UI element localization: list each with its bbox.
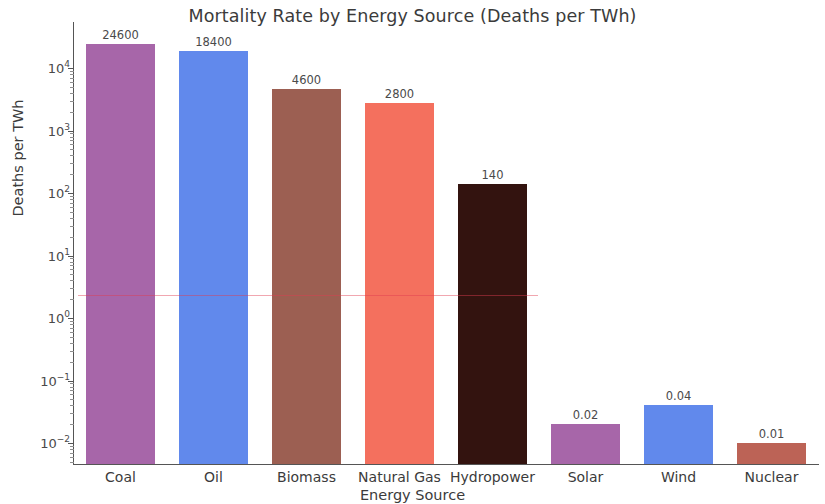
y-minor-tick <box>70 394 74 395</box>
x-tick-label: Oil <box>204 469 223 485</box>
x-tick-label: Biomass <box>277 469 336 485</box>
y-tick-mark <box>68 318 74 319</box>
y-minor-tick <box>70 203 74 204</box>
y-minor-tick <box>70 405 74 406</box>
y-minor-tick <box>70 280 74 281</box>
y-minor-tick <box>70 237 74 238</box>
y-minor-tick <box>70 207 74 208</box>
y-minor-tick <box>70 163 74 164</box>
y-tick-label: 100 <box>0 311 70 326</box>
y-minor-tick <box>70 144 74 145</box>
bar <box>272 89 341 464</box>
x-tick-label: Wind <box>661 469 696 485</box>
y-minor-tick <box>70 449 74 450</box>
y-tick-mark <box>68 381 74 382</box>
y-minor-tick <box>70 321 74 322</box>
bar <box>551 424 620 464</box>
y-tick-label: 10−2 <box>0 436 70 451</box>
bar <box>365 103 434 464</box>
y-minor-tick <box>70 446 74 447</box>
y-minor-tick <box>70 453 74 454</box>
y-minor-tick <box>70 155 74 156</box>
y-tick-label: 10−1 <box>0 373 70 388</box>
y-minor-tick <box>70 351 74 352</box>
y-minor-tick <box>70 140 74 141</box>
y-minor-tick <box>70 332 74 333</box>
bar-value-label: 24600 <box>102 28 139 42</box>
y-minor-tick <box>70 74 74 75</box>
y-tick-mark <box>68 443 74 444</box>
bar-value-label: 0.01 <box>759 427 785 441</box>
y-minor-tick <box>70 82 74 83</box>
chart-title: Mortality Rate by Energy Source (Deaths … <box>0 6 825 26</box>
y-tick-mark <box>68 131 74 132</box>
y-minor-tick <box>70 174 74 175</box>
y-minor-tick <box>70 462 74 463</box>
y-minor-tick <box>70 199 74 200</box>
bar-value-label: 2800 <box>385 87 414 101</box>
y-minor-tick <box>70 328 74 329</box>
y-minor-tick <box>70 337 74 338</box>
bar-value-label: 140 <box>482 168 504 182</box>
x-tick-label: Natural Gas <box>358 469 441 485</box>
y-minor-tick <box>70 87 74 88</box>
y-tick-mark <box>68 68 74 69</box>
y-minor-tick <box>70 269 74 270</box>
x-axis-label: Energy Source <box>0 487 825 503</box>
bar <box>458 184 527 464</box>
y-minor-tick <box>70 149 74 150</box>
y-minor-tick <box>70 387 74 388</box>
y-minor-tick <box>70 399 74 400</box>
y-minor-tick <box>70 71 74 72</box>
y-axis-label: Deaths per TWh <box>10 58 26 258</box>
y-minor-tick <box>70 274 74 275</box>
y-minor-tick <box>70 413 74 414</box>
y-minor-tick <box>70 133 74 134</box>
y-minor-tick <box>70 424 74 425</box>
y-minor-tick <box>70 324 74 325</box>
bar <box>737 443 806 464</box>
y-minor-tick <box>70 101 74 102</box>
bar-value-label: 4600 <box>292 73 321 87</box>
y-minor-tick <box>70 112 74 113</box>
y-minor-tick <box>70 265 74 266</box>
y-minor-tick <box>70 390 74 391</box>
y-minor-tick <box>70 78 74 79</box>
y-minor-tick <box>70 137 74 138</box>
x-axis-spine <box>73 464 819 465</box>
bar-value-label: 0.04 <box>666 389 692 403</box>
y-minor-tick <box>70 212 74 213</box>
y-minor-tick <box>70 196 74 197</box>
y-minor-tick <box>70 226 74 227</box>
bar-chart: Mortality Rate by Energy Source (Deaths … <box>0 0 825 504</box>
x-tick-label: Coal <box>105 469 136 485</box>
x-tick-label: Hydropower <box>450 469 535 485</box>
y-minor-tick <box>70 258 74 259</box>
y-minor-tick <box>70 299 74 300</box>
y-minor-tick <box>70 457 74 458</box>
y-minor-tick <box>70 343 74 344</box>
bar <box>86 44 155 464</box>
x-tick-label: Nuclear <box>745 469 799 485</box>
bar-value-label: 18400 <box>195 35 232 49</box>
y-tick-mark <box>68 256 74 257</box>
y-minor-tick <box>70 288 74 289</box>
y-minor-tick <box>70 383 74 384</box>
y-minor-tick <box>70 218 74 219</box>
x-tick-label: Solar <box>568 469 604 485</box>
y-minor-tick <box>70 262 74 263</box>
bar <box>644 405 713 464</box>
bar-value-label: 0.02 <box>573 408 599 422</box>
bar <box>179 51 248 464</box>
y-tick-mark <box>68 193 74 194</box>
y-minor-tick <box>70 93 74 94</box>
y-minor-tick <box>70 362 74 363</box>
